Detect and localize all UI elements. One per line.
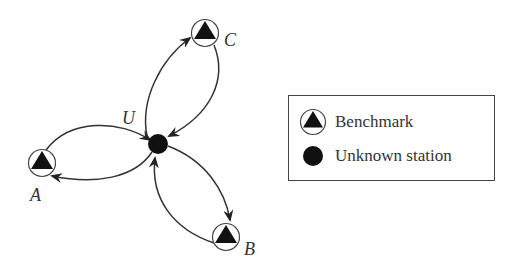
label-c: C <box>224 30 237 50</box>
label-b: B <box>244 239 255 259</box>
benchmark-icon <box>299 108 327 136</box>
edge-u-to-a <box>52 152 152 180</box>
legend-item-unknown-station: Unknown station <box>299 142 452 170</box>
edge-u-to-b <box>168 146 230 220</box>
legend-label-benchmark: Benchmark <box>335 112 413 132</box>
benchmark-b <box>213 224 240 251</box>
benchmark-c <box>192 20 219 47</box>
edge-u-to-c <box>146 38 190 136</box>
unknown-station-icon <box>299 142 327 170</box>
edge-c-to-u <box>169 45 219 136</box>
benchmark-a <box>29 150 56 177</box>
legend: Benchmark Unknown station <box>288 95 495 181</box>
label-u: U <box>122 108 136 128</box>
edge-a-to-u <box>46 125 150 150</box>
unknown-station-u <box>148 134 168 154</box>
label-a: A <box>29 185 42 205</box>
legend-item-benchmark: Benchmark <box>299 108 413 136</box>
legend-label-unknown-station: Unknown station <box>335 146 452 166</box>
